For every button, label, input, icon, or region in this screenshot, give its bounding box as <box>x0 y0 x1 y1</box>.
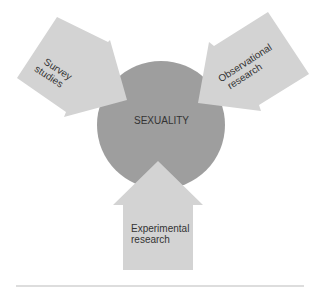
center-label: SEXUALITY <box>134 115 189 126</box>
survey-arrow <box>17 17 127 117</box>
experimental-line1: Experimental <box>131 223 189 234</box>
experimental-label: Experimental research <box>131 223 189 245</box>
diagram-canvas <box>0 0 322 296</box>
experimental-line2: research <box>131 234 189 245</box>
